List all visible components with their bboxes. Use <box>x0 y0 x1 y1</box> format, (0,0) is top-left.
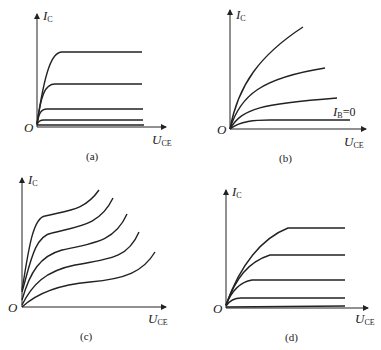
panel-caption: (d) <box>285 331 298 344</box>
x-axis-label: UCE <box>148 311 168 327</box>
y-axis-label: IC <box>42 8 53 24</box>
curve <box>226 228 345 305</box>
origin-label: O <box>24 120 34 135</box>
transistor-output-characteristics-figure: IC O UCE (a) IC O IB=0 UCE (b) IC O UCE … <box>0 0 381 350</box>
curve <box>37 52 142 124</box>
panel-caption: (b) <box>279 152 292 165</box>
curve <box>22 190 99 290</box>
panel-caption: (a) <box>86 150 99 163</box>
curve <box>226 306 345 307</box>
curve-ib-zero <box>230 120 350 129</box>
x-axis-label: UCE <box>152 132 172 148</box>
panel-caption: (c) <box>80 330 93 343</box>
curve <box>226 280 345 305</box>
y-axis-label: IC <box>231 184 242 200</box>
x-axis-label: UCE <box>344 134 364 150</box>
panel-c: IC O UCE (c) <box>8 172 168 343</box>
curve <box>22 198 113 292</box>
curve <box>37 84 142 124</box>
curve <box>230 27 303 129</box>
panel-a: IC O UCE (a) <box>24 8 172 163</box>
origin-label: O <box>8 300 18 315</box>
y-axis-label: IC <box>27 172 38 188</box>
x-axis-label: UCE <box>355 311 375 327</box>
curve <box>22 232 139 305</box>
panel-b: IC O IB=0 UCE (b) <box>217 7 366 165</box>
ib-zero-annotation: IB=0 <box>332 104 355 120</box>
origin-label: O <box>213 301 223 316</box>
origin-label: O <box>217 122 227 137</box>
curve <box>230 98 337 129</box>
y-axis-label: IC <box>235 7 246 23</box>
curve <box>37 109 143 124</box>
curve <box>226 298 345 306</box>
curve <box>37 120 143 125</box>
panel-d: IC O UCE (d) <box>213 184 375 344</box>
